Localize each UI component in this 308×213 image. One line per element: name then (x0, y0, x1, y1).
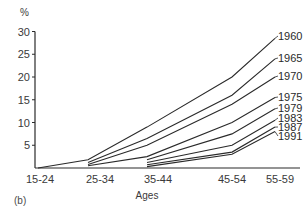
x-tick-label: 15-24 (26, 173, 54, 185)
x-tick-label: 25-34 (86, 173, 114, 185)
series-label-1965: 1965 (278, 52, 302, 64)
x-tick-label: 35-44 (144, 173, 172, 185)
series-line-1960 (38, 38, 275, 168)
x-tick-label: 55-59 (266, 173, 294, 185)
series-lines (38, 38, 275, 168)
y-tick-label: 30 (18, 26, 30, 38)
cohort-line-chart: 5101520253015-2425-3435-4445-5455-59 196… (0, 0, 308, 213)
series-labels: 19601965197019751979198319871991 (275, 30, 302, 142)
series-label-1991: 1991 (278, 130, 302, 142)
x-tick-label: 45-54 (218, 173, 246, 185)
y-tick-label: 5 (24, 139, 30, 151)
y-tick-label: 20 (18, 71, 30, 83)
series-line-1979 (147, 109, 275, 160)
y-tick-label: 10 (18, 117, 30, 129)
axes: 5101520253015-2425-3435-4445-5455-59 (18, 26, 300, 186)
y-tick-label: 15 (18, 94, 30, 106)
series-label-1970: 1970 (278, 70, 302, 82)
x-axis-label: Ages (136, 190, 159, 201)
series-label-1960: 1960 (278, 30, 302, 42)
panel-label: (b) (14, 195, 26, 206)
y-axis-label: % (20, 7, 29, 18)
y-tick-label: 25 (18, 48, 30, 60)
